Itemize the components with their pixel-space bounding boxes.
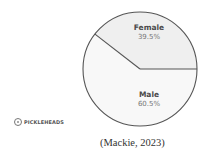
logo-text: PICKLEHEADS: [24, 119, 64, 125]
pickleheads-logo: PICKLEHEADS: [14, 118, 64, 126]
slice-label-male: Male 60.5%: [119, 91, 179, 108]
slice-percent-male: 60.5%: [119, 100, 179, 108]
slice-name-male: Male: [119, 91, 179, 100]
slice-name-female: Female: [119, 24, 179, 33]
slice-label-female: Female 39.5%: [119, 24, 179, 41]
citation: (Mackie, 2023): [100, 137, 165, 148]
slice-percent-female: 39.5%: [119, 33, 179, 41]
pickleheads-logo-icon: [14, 118, 22, 126]
